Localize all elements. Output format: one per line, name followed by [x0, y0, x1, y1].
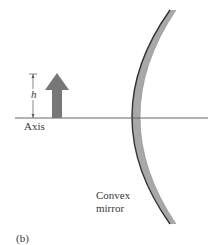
axis-label: Axis [24, 121, 45, 132]
height-label: h [30, 89, 38, 100]
convex-mirror-diagram: h Axis Convex mirror (b) [0, 0, 213, 245]
convex-mirror [132, 10, 176, 224]
object-arrow-icon [45, 73, 69, 118]
panel-label: (b) [16, 233, 29, 244]
mirror-label-line1: Convex [96, 189, 130, 202]
mirror-label: Convex mirror [96, 189, 130, 215]
mirror-back-edge [140, 10, 176, 224]
mirror-label-line2: mirror [96, 202, 130, 215]
height-bottom-arrowhead [32, 114, 35, 118]
height-top-arrowhead [32, 75, 35, 79]
